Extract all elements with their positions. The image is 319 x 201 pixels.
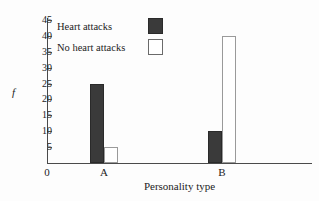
y-axis-tick: 30 (0, 63, 52, 73)
y-axis-tick: 45 (0, 15, 52, 25)
y-axis-tick: 40 (0, 31, 52, 41)
bar-a-heart-attacks (90, 84, 104, 163)
x-axis-origin-label: 0 (37, 166, 57, 178)
y-axis-tick-mark (48, 52, 52, 53)
y-axis-tick: 25 (0, 79, 52, 89)
y-axis-tick: 35 (0, 47, 52, 57)
y-axis-tick-mark (48, 20, 52, 21)
y-axis-tick: 15 (0, 110, 52, 120)
y-axis-tick-mark (48, 36, 52, 37)
legend-swatch-no-heart-attacks (148, 39, 163, 55)
x-axis-label-b: B (202, 166, 242, 178)
legend-item-heart-attacks: Heart attacks (57, 18, 163, 39)
bar-chart-figure: 51015202530354045 f Personality type 0 A… (0, 0, 319, 201)
y-axis-tick-mark (48, 68, 52, 69)
x-axis-line (47, 163, 312, 164)
legend-item-no-heart-attacks: No heart attacks (57, 39, 163, 60)
bar-b-heart-attacks (208, 131, 222, 163)
y-axis-tick: 20 (0, 94, 52, 104)
bar-a-no-heart-attacks (104, 147, 118, 163)
legend-label-heart-attacks: Heart attacks (57, 21, 112, 32)
bar-b-no-heart-attacks (222, 36, 236, 163)
y-axis-tick-mark (48, 147, 52, 148)
y-axis-tick-mark (48, 115, 52, 116)
y-axis-tick-mark (48, 131, 52, 132)
y-axis-tick-mark (48, 84, 52, 85)
x-axis-title: Personality type (47, 180, 312, 192)
y-axis-tick: 10 (0, 126, 52, 136)
y-axis-tick: 5 (0, 142, 52, 152)
y-axis-title: f (12, 86, 15, 98)
legend-label-no-heart-attacks: No heart attacks (57, 42, 125, 53)
legend-swatch-heart-attacks (148, 18, 163, 34)
chart-legend: Heart attacks No heart attacks (57, 18, 163, 60)
x-axis-label-a: A (84, 166, 124, 178)
y-axis-tick-mark (48, 99, 52, 100)
